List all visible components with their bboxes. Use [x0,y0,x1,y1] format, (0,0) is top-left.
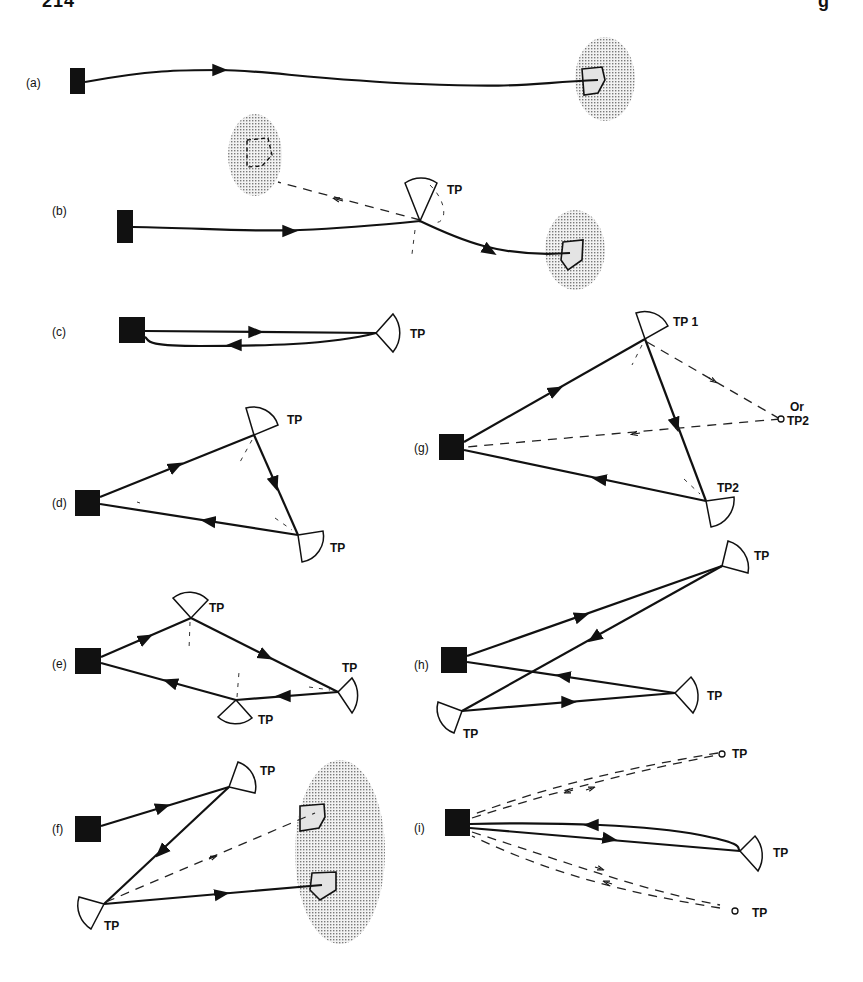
signal-path-return [464,450,706,501]
signal-path-leg2 [104,787,229,904]
turning-point-reflector-icon [173,592,208,618]
signal-path-leg1 [101,787,229,826]
tp1-label: TP 1 [673,315,698,329]
remote-tp-marker-icon [732,908,738,914]
panel-label-h: (h) [414,658,429,672]
panel-label-f: (f) [52,822,63,836]
figure-page: 214 g (a) (b) [0,0,863,982]
panel-label-c: (c) [52,325,66,339]
turning-point-reflector-icon [437,702,462,733]
panel-a: (a) [26,37,635,121]
turning-point-reflector-icon [229,762,256,793]
tp-label: TP [463,727,478,741]
panel-c: (c) TP [52,314,425,352]
tp2-label: TP2 [717,481,739,495]
turning-point-reflector-icon [78,897,104,929]
turning-point-reflector-icon [405,178,437,221]
turning-point-reflector-icon [740,836,762,871]
tp-label: TP [330,541,345,555]
panel-label-g: (g) [414,441,429,455]
signal-path-incoming [133,221,420,231]
signal-path-leg2 [254,435,298,535]
transmitter-icon [441,647,467,673]
turning-point-reflector-icon [218,700,252,724]
tp-label: TP [260,764,275,778]
tp-label: TP [754,549,769,563]
panel-b: (b) TP [52,114,605,290]
panel-label-a: (a) [26,76,41,90]
dashed-path-upper-out [472,755,718,818]
dashed-path-alternate [278,182,420,220]
panel-label-i: (i) [414,821,425,835]
turning-point-reflector-icon [376,314,400,352]
alt-tp-label: TP2 [787,414,809,428]
alt-tp-label-or: Or [790,400,804,414]
signal-path-return [145,333,376,346]
signal-path [85,70,598,86]
transmitter-icon [445,809,470,836]
alternate-tp-marker-icon [778,416,784,422]
signal-path-diagram: (a) (b) TP (c) [0,0,863,982]
transmitter-icon [119,317,145,343]
panel-label-e: (e) [52,657,67,671]
turning-point-reflector-icon [246,407,278,435]
tp-label: TP [342,661,357,675]
panel-h: (h) TP TP TP [414,541,769,741]
dashed-path-lower-out [472,832,720,905]
transmitter-icon [75,648,101,674]
tp-label: TP [732,747,747,761]
signal-path-leg3 [104,885,322,904]
signal-path-return [100,504,298,535]
panel-g: (g) TP 1 TP2 Or TP2 [414,312,809,527]
panel-d: (d) TP TP [52,407,345,562]
transmitter-icon [75,816,101,842]
target-area-alternate [228,114,282,196]
tp-label: TP [287,413,302,427]
transmitter-icon [439,434,464,460]
tp-label: TP [447,183,462,197]
signal-path-outgoing [145,331,376,333]
tp-label: TP [752,906,767,920]
panel-label-b: (b) [52,204,67,218]
panel-e: (e) TP TP TP [52,592,358,727]
turning-point-reflector-icon [706,497,734,527]
tp-label: TP [410,327,425,341]
panel-label-d: (d) [52,496,67,510]
signal-path-leg1 [100,435,254,497]
signal-path-return [467,662,675,693]
signal-path-leg1 [101,618,191,657]
remote-tp-marker-icon [719,751,725,757]
turning-point-reflector-icon [636,312,668,339]
signal-path-leg1 [467,566,722,656]
panel-f: (f) TP TP [52,760,385,944]
panel-i: (i) TP TP TP [414,747,788,920]
tp-label: TP [104,919,119,933]
turning-point-reflector-icon [675,677,698,713]
transmitter-icon [70,68,85,94]
tp-label: TP [707,689,722,703]
turning-point-reflector-icon [298,531,324,562]
dashed-path-alternate-return [466,419,780,447]
tp-label: TP [773,846,788,860]
transmitter-icon [75,490,100,516]
signal-path-return [101,663,236,700]
target-area [295,760,385,944]
tp-label: TP [209,601,224,615]
tp-label: TP [258,713,273,727]
turning-point-reflector-icon [722,541,748,573]
transmitter-icon [117,210,133,243]
signal-path-leg2 [645,339,706,501]
signal-path-outgoing [470,828,740,851]
turning-point-reflector-icon [338,678,358,713]
